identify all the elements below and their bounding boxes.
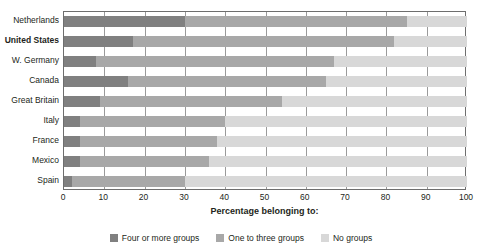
x-tick-label: 40 [219,192,228,202]
legend-swatch-icon [110,234,118,242]
bar-segment [185,176,467,187]
value-axis-ticks: 0102030405060708090100 [63,192,466,204]
bar-segment [64,36,133,47]
category-label-canada: Canada [0,75,59,86]
bar-segment [334,56,467,67]
bar-segment [225,116,467,127]
bar-segment [209,156,467,167]
category-label-spain: Spain [0,175,59,186]
bar-segment [64,76,128,87]
bar-segment [64,56,96,67]
x-tick-label: 0 [61,192,66,202]
x-tick-label: 60 [300,192,309,202]
bar-segment [80,136,217,147]
plot-area [63,11,466,190]
bar-segment [64,156,80,167]
x-tick-label: 50 [260,192,269,202]
legend-item: No groups [321,233,372,243]
legend-label: Four or more groups [122,233,199,243]
bar-segment [407,16,467,27]
legend: Four or more groupsOne to three groupsNo… [0,233,482,243]
bar-segment [217,136,467,147]
bar-segment [72,176,185,187]
bar-segment [100,96,281,107]
legend-swatch-icon [321,234,329,242]
x-tick-label: 100 [459,192,473,202]
bar-segment [282,96,467,107]
bar-segment [64,176,72,187]
category-label-united-states: United States [0,35,59,46]
bar-row [64,76,465,87]
bar-segment [64,136,80,147]
legend-label: One to three groups [228,233,304,243]
bar-segment [326,76,467,87]
legend-item: One to three groups [216,233,304,243]
bar-row [64,176,465,187]
x-tick-label: 20 [139,192,148,202]
x-tick-label: 80 [381,192,390,202]
category-label-mexico: Mexico [0,155,59,166]
bar-segment [80,116,225,127]
legend-label: No groups [333,233,372,243]
category-label-france: France [0,135,59,146]
category-label-great-britain: Great Britain [0,95,59,106]
bar-segment [80,156,209,167]
bar-row [64,156,465,167]
legend-item: Four or more groups [110,233,199,243]
category-label-netherlands: Netherlands [0,15,59,26]
x-tick-label: 30 [179,192,188,202]
bar-row [64,56,465,67]
x-tick-label: 90 [421,192,430,202]
bar-row [64,16,465,27]
x-tick-label: 70 [340,192,349,202]
bar-segment [96,56,334,67]
stacked-bar-chart: NetherlandsUnited StatesW. GermanyCanada… [0,0,482,250]
axis-title: Percentage belonging to: [63,206,466,216]
bar-row [64,136,465,147]
legend-swatch-icon [216,234,224,242]
bar-segment [133,36,395,47]
bar-row [64,96,465,107]
bar-segment [185,16,407,27]
bar-row [64,36,465,47]
bar-segment [64,96,100,107]
bar-segment [64,16,185,27]
bar-row [64,116,465,127]
bar-segment [128,76,325,87]
category-label-italy: Italy [0,115,59,126]
bar-segment [394,36,467,47]
category-label-w-germany: W. Germany [0,55,59,66]
bar-segment [64,116,80,127]
x-tick-label: 10 [99,192,108,202]
category-axis-labels: NetherlandsUnited StatesW. GermanyCanada… [0,11,59,190]
bars-layer [64,12,465,189]
